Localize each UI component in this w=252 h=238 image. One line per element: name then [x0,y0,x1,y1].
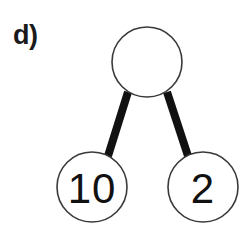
whole-circle[interactable] [112,27,182,97]
number-bond-diagram: 10 2 [0,0,252,238]
number-bond-exercise: d) 10 2 [0,0,252,238]
part-left-value: 10 [68,165,117,212]
link-whole-to-part-left [108,92,128,156]
link-whole-to-part-right [167,92,188,156]
part-right-value: 2 [191,165,215,212]
